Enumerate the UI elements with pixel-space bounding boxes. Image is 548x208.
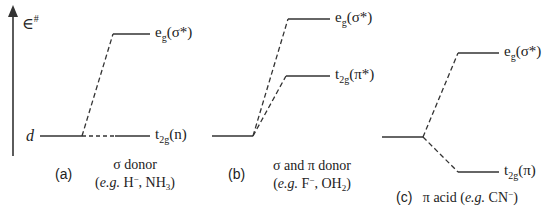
panel-c-caption: (c) π acid (e.g. CN−) bbox=[396, 189, 518, 207]
d-orbital-label: d bbox=[26, 128, 34, 144]
panel-a-t2g-label: t2g(n) bbox=[155, 127, 187, 145]
panel-a-eg-label: eg(σ*) bbox=[155, 25, 192, 43]
panel-a-lines bbox=[40, 34, 150, 136]
panel-a-title: σ donor bbox=[90, 156, 180, 174]
panel-c-title: π acid bbox=[423, 190, 457, 205]
panel-c-lines bbox=[382, 53, 499, 172]
panel-b-caption: σ and π donor (e.g. F−, OH2) bbox=[262, 157, 362, 194]
panel-b-example: (e.g. F−, OH2) bbox=[262, 175, 362, 194]
panel-b-tag: (b) bbox=[228, 166, 245, 182]
panel-b-lines bbox=[212, 19, 330, 136]
panel-c-eg-label: eg(σ*) bbox=[504, 44, 541, 62]
panel-b-t2g-label: t2g(π*) bbox=[335, 67, 374, 85]
panel-b-eg-label: eg(σ*) bbox=[335, 10, 372, 28]
panel-c-t2g-label: t2g(π) bbox=[504, 163, 536, 181]
arrow-up-icon bbox=[8, 5, 18, 17]
panel-b-title: σ and π donor bbox=[262, 157, 362, 175]
energy-axis-label: ∈# bbox=[22, 14, 39, 32]
panel-a-example: (e.g. H−, NH3) bbox=[90, 174, 180, 193]
panel-a-caption: σ donor (e.g. H−, NH3) bbox=[90, 156, 180, 193]
panel-c-tag: (c) bbox=[396, 189, 412, 205]
panel-c-example: (e.g. CN−) bbox=[460, 190, 518, 205]
panel-a-tag: (a) bbox=[55, 166, 72, 182]
